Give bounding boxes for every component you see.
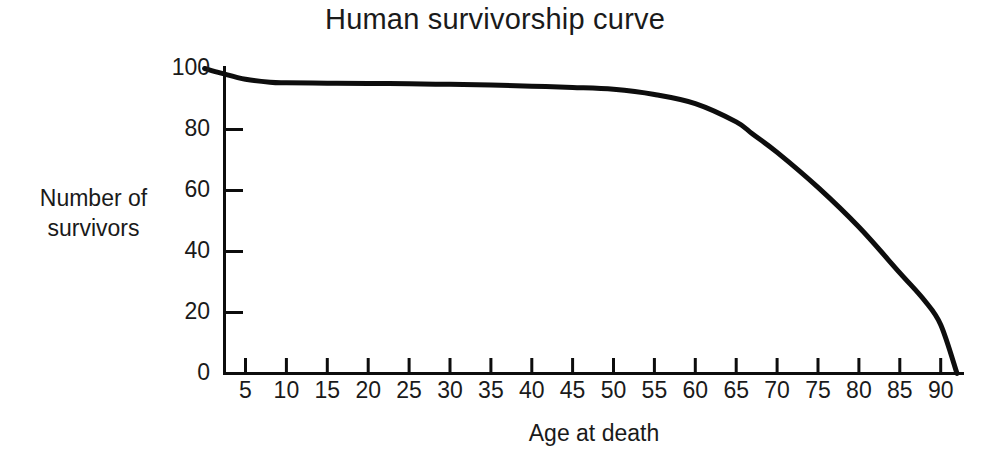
y-tick-label-0: 0 (140, 361, 210, 384)
x-tick-label-85: 85 (877, 379, 923, 402)
x-tick-label-70: 70 (754, 379, 800, 402)
y-tick-label-20: 20 (140, 300, 210, 323)
x-tick-label-40: 40 (509, 379, 555, 402)
x-tick-label-60: 60 (672, 379, 718, 402)
x-tick-label-30: 30 (427, 379, 473, 402)
x-tick-label-15: 15 (304, 379, 350, 402)
x-tick-label-20: 20 (345, 379, 391, 402)
x-tick-label-55: 55 (631, 379, 677, 402)
x-tick-label-75: 75 (795, 379, 841, 402)
x-tick-label-35: 35 (468, 379, 514, 402)
x-tick-label-45: 45 (550, 379, 596, 402)
x-tick-label-65: 65 (713, 379, 759, 402)
y-tick-label-80: 80 (140, 117, 210, 140)
x-tick-label-10: 10 (263, 379, 309, 402)
y-tick-label-40: 40 (140, 239, 210, 262)
y-tick-label-60: 60 (140, 178, 210, 201)
y-tick-label-100: 100 (140, 56, 210, 79)
x-tick-label-5: 5 (223, 379, 269, 402)
y-axis-ticks (225, 130, 243, 313)
survivorship-curve-line (205, 69, 957, 374)
x-tick-label-90: 90 (918, 379, 964, 402)
x-axis-ticks (246, 358, 941, 372)
x-tick-label-50: 50 (591, 379, 637, 402)
x-tick-label-80: 80 (836, 379, 882, 402)
chart-figure: Human survivorship curve Number of survi… (0, 0, 990, 467)
x-tick-label-25: 25 (386, 379, 432, 402)
